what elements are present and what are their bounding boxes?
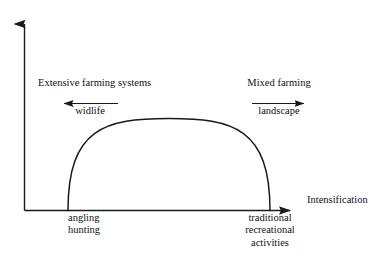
diagram-canvas: [0, 0, 389, 260]
diagram-figure: Extensive farming systems widlife Mixed …: [0, 0, 389, 260]
extensive-farming-systems-label: Extensive farming systems: [38, 77, 151, 89]
x-tick-label-right-line-2: recreational: [245, 224, 295, 236]
landscape-label: landscape: [258, 105, 299, 117]
x-tick-label-right-line-3: activities: [245, 237, 295, 249]
x-tick-label-left: angling hunting: [68, 212, 100, 237]
x-tick-label-right-line-1: traditional: [245, 212, 295, 224]
x-tick-label-right: traditional recreational activities: [245, 212, 295, 249]
wildlife-label: widlife: [75, 105, 105, 117]
mixed-farming-label: Mixed farming: [247, 77, 310, 89]
x-tick-label-left-line-2: hunting: [68, 224, 100, 236]
x-axis-title: Intensification: [307, 194, 368, 206]
arch-curve: [68, 119, 270, 211]
x-tick-label-left-line-1: angling: [68, 212, 100, 224]
